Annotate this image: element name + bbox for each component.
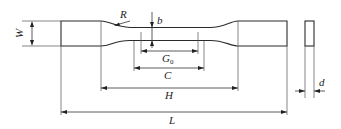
specimen-side-view [305, 21, 314, 98]
label-w: W [13, 28, 25, 38]
label-g0: G0 [162, 52, 174, 66]
tensile-specimen-diagram: W R b G0 C H [0, 0, 341, 129]
dimension-d: d [295, 76, 325, 93]
label-c: C [164, 69, 172, 81]
label-b: b [157, 14, 163, 26]
dimension-g0: G0 [141, 32, 198, 66]
dimension-l: L [61, 46, 287, 126]
dimension-r: R [114, 8, 130, 26]
dimension-w: W [13, 21, 61, 46]
dimension-b: b [150, 12, 163, 48]
label-r: R [119, 8, 127, 20]
label-l: L [168, 114, 175, 126]
specimen-front-view [61, 21, 287, 46]
label-d: d [319, 76, 325, 88]
label-h: H [164, 89, 174, 101]
